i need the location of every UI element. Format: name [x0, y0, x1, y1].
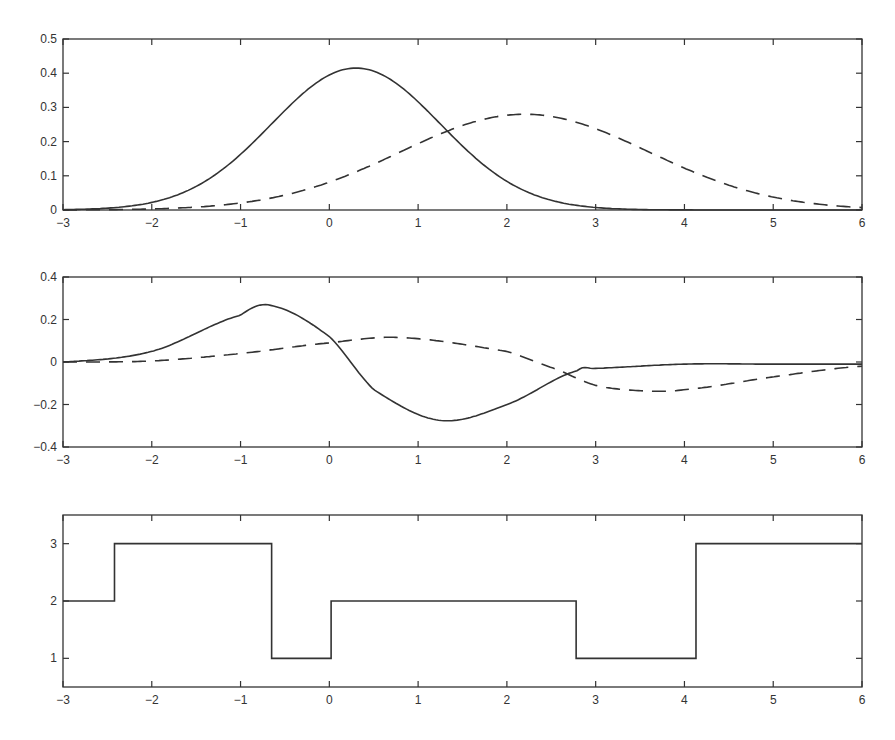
x-tick-label: 1: [415, 693, 422, 707]
y-tick-label: 0: [50, 203, 57, 217]
series-solid-line: [63, 305, 862, 421]
x-tick-label: 5: [770, 216, 777, 230]
x-tick-label: −2: [145, 453, 159, 467]
x-tick-label: −1: [234, 693, 248, 707]
y-tick-label: 0.1: [40, 169, 57, 183]
y-tick-label: 1: [50, 651, 57, 665]
x-tick-label: 3: [592, 693, 599, 707]
series-step-line: [63, 544, 862, 659]
x-tick-label: 6: [859, 216, 866, 230]
x-tick-label: 3: [592, 453, 599, 467]
x-tick-label: −2: [145, 693, 159, 707]
x-tick-label: 0: [326, 693, 333, 707]
panel-3: −3−2−10123456123: [50, 515, 865, 707]
series-solid-line: [63, 68, 862, 210]
x-tick-label: −3: [56, 216, 70, 230]
y-tick-label: 3: [50, 537, 57, 551]
x-tick-label: 4: [681, 693, 688, 707]
panel-1: −3−2−1012345600.10.20.30.40.5: [40, 32, 865, 230]
panel-2: −3−2−10123456−0.4−0.200.20.4: [33, 270, 865, 467]
x-tick-label: 0: [326, 453, 333, 467]
x-tick-label: 1: [415, 216, 422, 230]
x-tick-label: −1: [234, 216, 248, 230]
x-tick-label: 3: [592, 216, 599, 230]
x-tick-label: 1: [415, 453, 422, 467]
x-tick-label: 2: [504, 693, 511, 707]
y-tick-label: 2: [50, 594, 57, 608]
x-tick-label: 2: [504, 453, 511, 467]
x-tick-label: 5: [770, 693, 777, 707]
x-tick-label: 4: [681, 453, 688, 467]
y-tick-label: 0: [50, 355, 57, 369]
x-tick-label: 6: [859, 453, 866, 467]
y-tick-label: −0.2: [33, 398, 57, 412]
y-tick-label: 0.4: [40, 270, 57, 284]
y-tick-label: 0.3: [40, 100, 57, 114]
figure: −3−2−1012345600.10.20.30.40.5−3−2−101234…: [0, 0, 895, 740]
y-tick-label: −0.4: [33, 440, 57, 454]
x-tick-label: 0: [326, 216, 333, 230]
y-tick-label: 0.2: [40, 313, 57, 327]
x-tick-label: −1: [234, 453, 248, 467]
y-tick-label: 0.4: [40, 66, 57, 80]
x-tick-label: 4: [681, 216, 688, 230]
x-tick-label: 6: [859, 693, 866, 707]
x-tick-label: −3: [56, 453, 70, 467]
x-tick-label: 5: [770, 453, 777, 467]
y-tick-label: 0.2: [40, 135, 57, 149]
x-tick-label: −2: [145, 216, 159, 230]
y-tick-label: 0.5: [40, 32, 57, 46]
series-dashed-line: [63, 114, 862, 210]
x-tick-label: 2: [504, 216, 511, 230]
x-tick-label: −3: [56, 693, 70, 707]
axes-frame: [63, 39, 862, 210]
axes-frame: [63, 277, 862, 447]
